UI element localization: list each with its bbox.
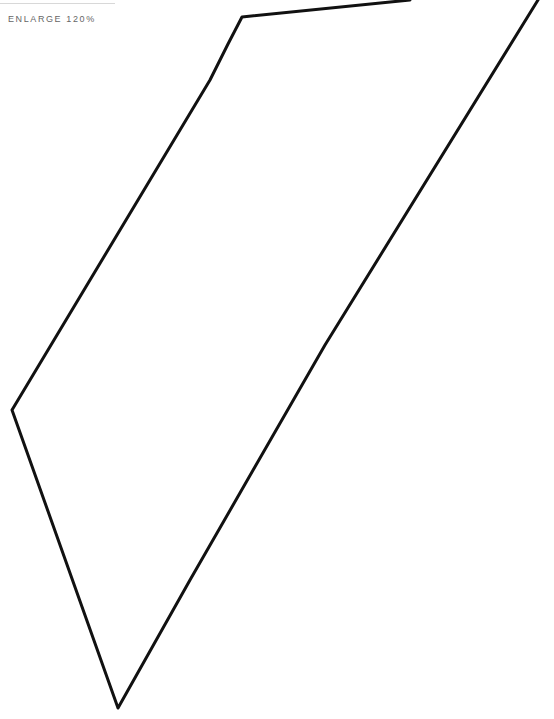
outline-drawing — [0, 0, 554, 719]
shape-outline — [12, 0, 538, 708]
